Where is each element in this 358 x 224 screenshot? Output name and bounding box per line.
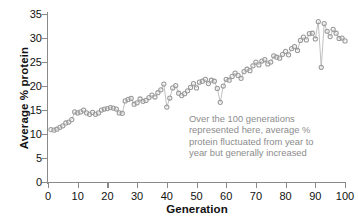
x-tick	[137, 182, 138, 188]
data-point	[120, 111, 124, 115]
data-point	[218, 100, 222, 104]
x-tick-label: 90	[309, 190, 321, 202]
y-tick	[42, 158, 48, 159]
data-point	[165, 105, 169, 109]
data-point	[322, 22, 326, 26]
y-axis-title: Average % protein	[18, 28, 30, 168]
x-tick-label: 80	[279, 190, 291, 202]
data-point	[316, 20, 320, 24]
data-point	[334, 31, 338, 35]
data-point	[188, 85, 192, 89]
data-point	[227, 78, 231, 82]
y-tick	[42, 38, 48, 39]
x-tick	[256, 182, 257, 188]
x-tick-label: 100	[336, 190, 354, 202]
x-tick	[345, 182, 346, 188]
x-tick	[48, 182, 49, 188]
data-point	[114, 107, 118, 111]
x-tick	[107, 182, 108, 188]
y-tick-label: 35	[30, 8, 42, 20]
annotation-line: represented here, average %	[189, 124, 349, 135]
data-point	[159, 88, 163, 92]
chart-annotation: Over the 100 generationsrepresented here…	[189, 113, 349, 159]
x-tick-label: 70	[250, 190, 262, 202]
data-point	[313, 37, 317, 41]
data-point	[212, 79, 216, 83]
x-tick-label: 40	[161, 190, 173, 202]
data-point	[343, 39, 347, 43]
x-axis-title: Generation	[48, 203, 346, 215]
data-point	[135, 101, 139, 105]
data-point	[70, 118, 74, 122]
data-point	[129, 96, 133, 100]
annotation-line: year but generally increased	[189, 147, 349, 158]
protein-generation-chart: Average % protein Generation 05101520253…	[0, 0, 358, 224]
x-tick	[197, 182, 198, 188]
x-tick-label: 60	[220, 190, 232, 202]
data-point	[248, 69, 252, 73]
data-point	[269, 60, 273, 64]
data-point	[257, 63, 261, 67]
data-point	[286, 53, 290, 57]
data-point	[295, 48, 299, 52]
y-tick-label: 30	[30, 32, 42, 44]
annotation-line: Over the 100 generations	[189, 113, 349, 124]
y-tick-label: 0	[36, 176, 42, 188]
data-point	[278, 56, 282, 60]
data-point	[251, 64, 255, 68]
data-point	[263, 58, 267, 62]
data-point	[292, 45, 296, 49]
data-point	[331, 27, 335, 31]
data-point	[162, 82, 166, 86]
x-tick	[315, 182, 316, 188]
x-tick	[226, 182, 227, 188]
data-point	[191, 82, 195, 86]
data-point	[203, 77, 207, 81]
data-point	[153, 95, 157, 99]
data-point	[328, 34, 332, 38]
data-point	[168, 96, 172, 100]
y-tick	[42, 86, 48, 87]
data-point	[194, 86, 198, 90]
x-tick-label: 20	[101, 190, 113, 202]
x-tick-label: 0	[45, 190, 51, 202]
y-tick	[42, 14, 48, 15]
y-tick-label: 15	[30, 104, 42, 116]
x-tick-label: 50	[190, 190, 202, 202]
data-point	[310, 31, 314, 35]
x-tick-label: 30	[131, 190, 143, 202]
y-tick-label: 10	[30, 128, 42, 140]
data-point	[239, 76, 243, 80]
data-point	[215, 86, 219, 90]
annotation-line: protein fluctuated from year to	[189, 136, 349, 147]
y-tick	[42, 110, 48, 111]
data-point	[221, 84, 225, 88]
x-tick-label: 10	[72, 190, 84, 202]
data-point	[304, 38, 308, 42]
x-tick	[286, 182, 287, 188]
x-tick	[78, 182, 79, 188]
y-tick-label: 5	[36, 152, 42, 164]
data-point	[319, 65, 323, 69]
data-point	[174, 83, 178, 87]
y-tick-label: 20	[30, 80, 42, 92]
x-tick	[167, 182, 168, 188]
y-tick-label: 25	[30, 56, 42, 68]
y-tick	[42, 62, 48, 63]
data-point	[325, 29, 329, 33]
y-tick	[42, 134, 48, 135]
